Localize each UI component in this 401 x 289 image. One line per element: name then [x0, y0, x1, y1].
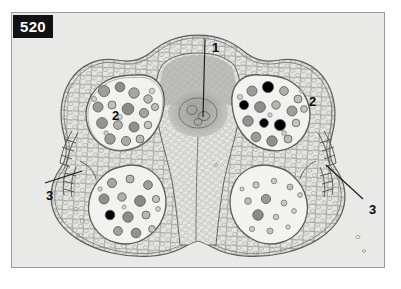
callout-label-2-left: 2	[112, 109, 119, 122]
callout-label-3-right: 3	[369, 203, 376, 216]
callout-label-1: 1	[212, 41, 219, 54]
screenshot-canvas: 520 1 2 2 3 3	[0, 0, 401, 289]
plate-number-badge: 520	[13, 15, 53, 38]
plate-number-text: 520	[20, 19, 46, 34]
micrograph-plate: 520 1 2 2 3 3	[11, 12, 385, 268]
callout-label-2-right: 2	[309, 95, 316, 108]
anther-cross-section-drawing	[12, 13, 384, 267]
callout-label-3-left: 3	[46, 189, 53, 202]
